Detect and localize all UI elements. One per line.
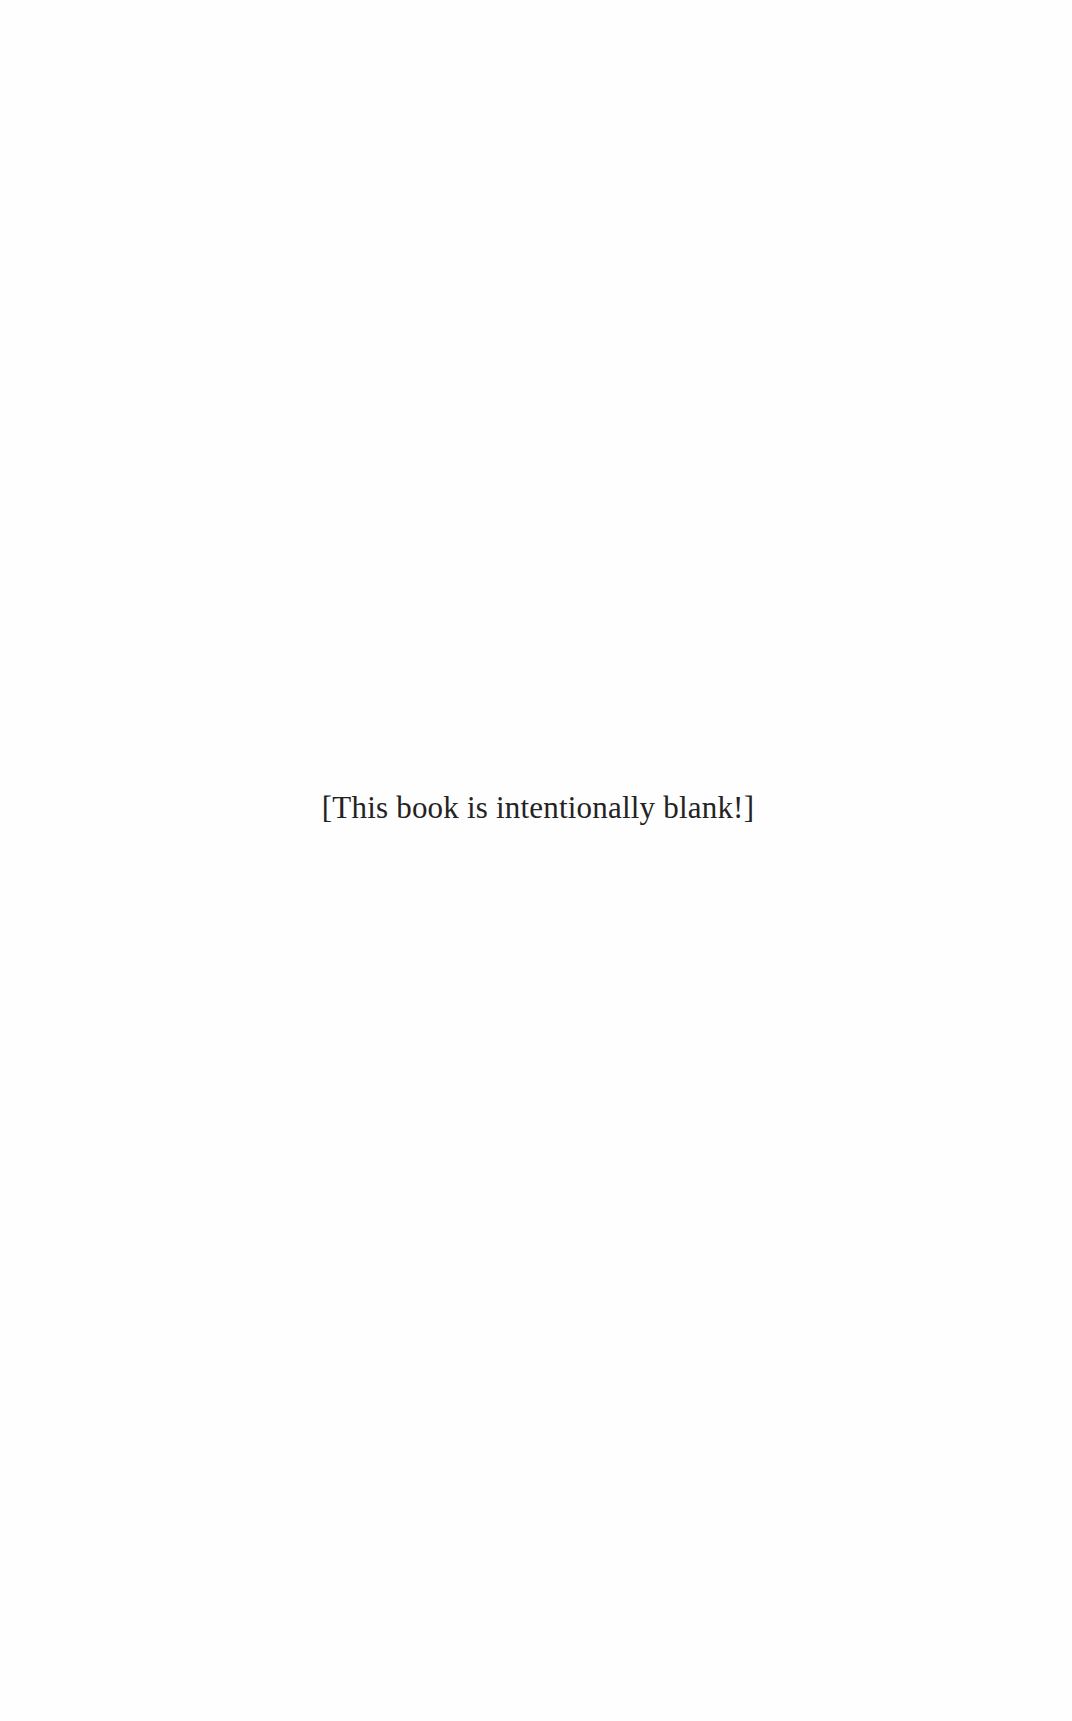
book-page: [This book is intentionally blank!]	[0, 0, 1072, 1721]
blank-page-notice: [This book is intentionally blank!]	[0, 788, 1072, 828]
